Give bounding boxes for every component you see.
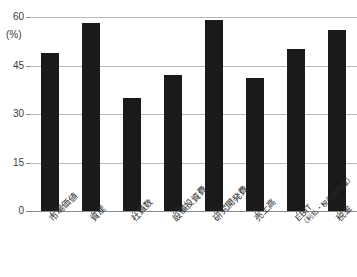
y-tick-label-60: 60 (0, 12, 24, 22)
gridline-60 (30, 17, 357, 18)
y-tick-label-45: 45 (0, 61, 24, 71)
gridline-45 (30, 66, 357, 67)
y-tickmark-60 (26, 17, 30, 18)
y-tick-label-0: 0 (0, 206, 24, 216)
y-tickmark-45 (26, 66, 30, 67)
bar-7 (287, 49, 305, 211)
y-tick-label-15: 15 (0, 158, 24, 168)
bar-1 (41, 53, 59, 211)
y-tickmark-30 (26, 114, 30, 115)
bar-4 (164, 75, 182, 211)
y-tickmark-0 (26, 211, 30, 212)
y-tick-label-30: 30 (0, 109, 24, 119)
y-tickmark-15 (26, 163, 30, 164)
bar-2 (82, 23, 100, 211)
gridline-30 (30, 114, 357, 115)
bar-5 (205, 20, 223, 211)
y-axis-unit-label: (%) (6, 30, 22, 40)
chart-title-cropped (0, 0, 357, 6)
bar-3 (123, 98, 141, 211)
gridline-15 (30, 163, 357, 164)
plot-area (30, 17, 357, 211)
bar-chart: (%) 015304560市場価値資産社員数設備投資費研究開発費売上高EBIT（… (0, 0, 357, 277)
